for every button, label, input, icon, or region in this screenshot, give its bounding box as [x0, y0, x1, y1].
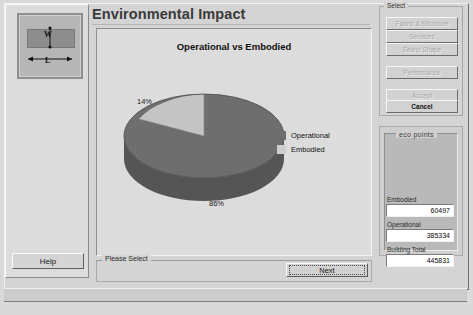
legend-item-embodied: Embodied: [277, 145, 330, 154]
services-button[interactable]: Services: [386, 30, 458, 43]
application-window: W L Help Environmental Impact Operationa…: [0, 0, 473, 315]
next-button-label: Next: [319, 266, 334, 275]
eco-points-label: eco points: [396, 131, 437, 138]
legend-swatch-embodied-icon: [277, 145, 286, 154]
operational-field: Operational 385334: [386, 221, 454, 242]
shape-preview-diagram[interactable]: W L: [17, 13, 83, 79]
left-panel: W L Help: [5, 4, 89, 278]
select-shape-button[interactable]: Select Shape: [386, 43, 458, 56]
chart-title: Operational vs Embodied: [97, 41, 371, 52]
chart-legend: Operational Embodied: [277, 131, 330, 159]
legend-label-embodied: Embodied: [291, 145, 325, 154]
title-divider: [92, 24, 370, 25]
embodied-field: Embodied 60497: [386, 196, 454, 217]
pie-chart-svg: [119, 71, 289, 201]
help-button[interactable]: Help: [12, 253, 84, 269]
building-total-field: Building Total 445831: [386, 246, 454, 267]
pie-label-embodied-percent: 14%: [137, 97, 152, 106]
window-bottom-strip: [4, 288, 467, 302]
embodied-field-label: Embodied: [386, 196, 454, 203]
length-dimension-label: L: [45, 56, 50, 65]
legend-label-operational: Operational: [291, 131, 330, 140]
operational-field-label: Operational: [386, 221, 454, 228]
select-group-panel: Fabric & Structure Services Select Shape…: [379, 6, 463, 116]
cancel-button[interactable]: Cancel: [386, 100, 458, 113]
width-dimension-label: W: [44, 30, 52, 39]
page-title: Environmental Impact: [92, 6, 245, 22]
pie-label-operational-percent: 86%: [209, 199, 224, 208]
select-group-label: Select: [384, 2, 408, 9]
fabric-structure-button[interactable]: Fabric & Structure: [386, 17, 458, 30]
legend-item-operational: Operational: [277, 131, 330, 140]
embodied-field-value[interactable]: 60497: [386, 204, 454, 217]
performance-button[interactable]: Performance: [386, 66, 458, 79]
please-select-label: Please Select: [102, 255, 151, 262]
next-button[interactable]: Next: [286, 263, 368, 277]
building-total-field-label: Building Total: [386, 246, 454, 253]
pie-chart: [119, 71, 289, 201]
operational-field-value[interactable]: 385334: [386, 229, 454, 242]
building-total-field-value[interactable]: 445831: [386, 254, 454, 267]
legend-swatch-operational-icon: [277, 131, 286, 140]
chart-panel: Operational vs Embodied 14% 86%: [96, 28, 372, 256]
